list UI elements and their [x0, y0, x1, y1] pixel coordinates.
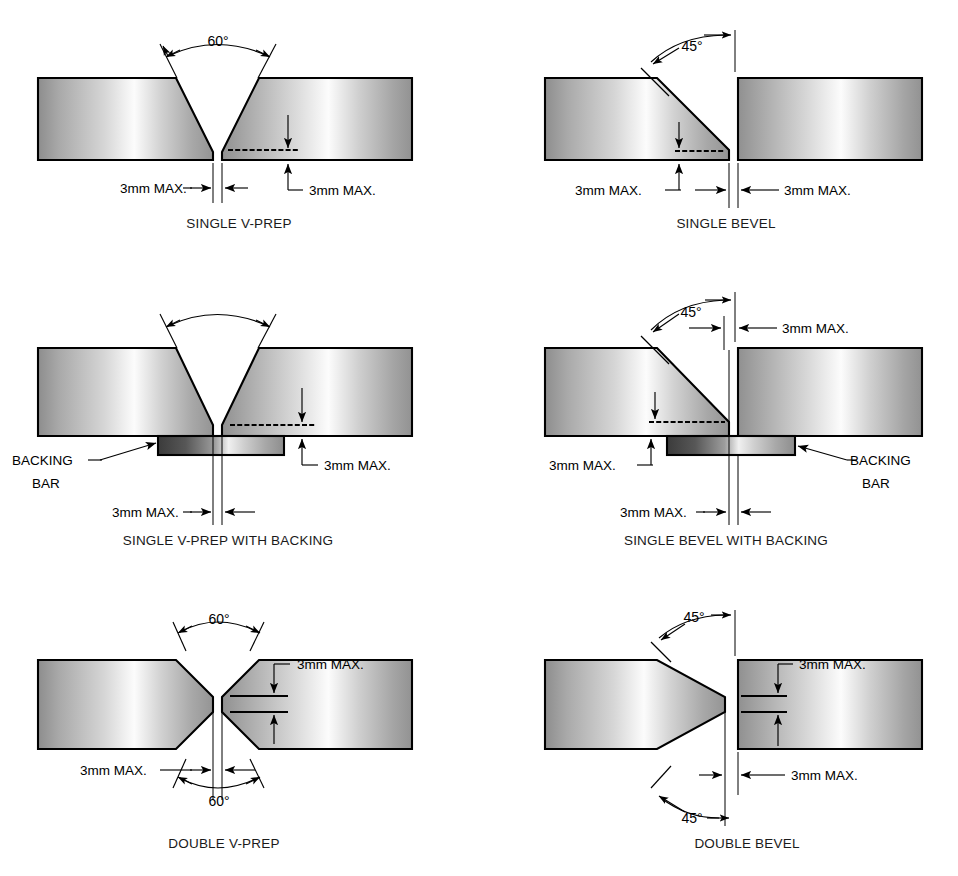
backing-bar — [667, 436, 795, 455]
root-gap-label: 3mm MAX. — [112, 505, 179, 520]
backing-bar-label-line1: BACKING — [12, 453, 73, 468]
angle-bottom-arrow-right — [246, 777, 260, 784]
left-plate — [38, 660, 213, 749]
angle-label-45-top: 45° — [683, 609, 704, 625]
panel-single-bevel-with-backing: 45° 3mm MAX. 3mm MAX. BACKING BAR 3mm MA… — [479, 250, 958, 560]
root-gap-label: 3mm MAX. — [120, 181, 187, 196]
panel-double-bevel: 45° 45° 3mm MAX. 3mm MAX. DOUBLE BEVEL — [479, 560, 958, 876]
angle-top-arrow-left — [178, 626, 192, 633]
root-face-label: 3mm MAX. — [309, 183, 376, 198]
bevel-extension-left — [160, 44, 177, 78]
left-plate — [545, 78, 729, 160]
angle-label-45: 45° — [681, 38, 702, 54]
weld-preparation-figure-sheet: 60° 3mm MAX. 3mm MAX. SINGLE V-PREP 45° — [0, 0, 958, 876]
right-plate — [738, 660, 922, 749]
panel-single-v-prep: 60° 3mm MAX. 3mm MAX. SINGLE V-PREP — [0, 0, 479, 250]
right-plate — [222, 348, 412, 436]
panel-caption: DOUBLE V-PREP — [168, 836, 279, 851]
bevel-ext-top-left — [173, 622, 186, 651]
root-gap-label: 3mm MAX. — [620, 505, 687, 520]
root-gap-label: 3mm MAX. — [791, 768, 858, 783]
backing-bar-leader — [798, 446, 847, 460]
angle-arrow-right — [256, 50, 270, 57]
root-gap-top-label: 3mm MAX. — [782, 321, 849, 336]
root-face-label: 3mm MAX. — [297, 657, 364, 672]
angle-top-arrow-to-bevel — [661, 624, 685, 640]
bevel-ext-bottom-right — [250, 759, 264, 788]
right-plate — [222, 660, 412, 749]
root-face-label: 3mm MAX. — [799, 657, 866, 672]
root-gap-label: 3mm MAX. — [80, 763, 147, 778]
angle-arrow-to-bevel — [653, 314, 679, 332]
right-plate — [738, 78, 922, 160]
angle-arc-60 — [168, 315, 268, 327]
panel-caption: SINGLE V-PREP — [186, 216, 291, 231]
backing-bar-leader — [100, 443, 156, 460]
backing-bar-label-line2: BAR — [32, 476, 60, 491]
bevel-ext-bottom-left — [173, 759, 186, 788]
bevel-extension-bottom — [651, 766, 671, 788]
left-plate — [545, 660, 725, 749]
bevel-extension-right — [258, 44, 276, 78]
panel-single-bevel: 45° 3mm MAX. 3mm MAX. SINGLE BEVEL — [479, 0, 958, 250]
panel-caption: DOUBLE BEVEL — [694, 836, 799, 851]
angle-label-60-bottom: 60° — [208, 793, 229, 809]
right-plate — [222, 78, 412, 160]
angle-top-arrow-right — [246, 626, 260, 633]
root-gap-label: 3mm MAX. — [784, 183, 851, 198]
angle-bottom-arrow-left — [178, 777, 192, 784]
backing-bar-label-line1: BACKING — [850, 453, 911, 468]
bevel-ext-top-right — [250, 622, 264, 651]
right-plate — [738, 348, 922, 436]
bevel-extension-left — [160, 314, 177, 348]
angle-arrow-right — [256, 320, 270, 327]
backing-bar — [158, 436, 284, 455]
angle-label-60: 60° — [207, 33, 228, 49]
angle-label-45-bottom: 45° — [681, 810, 702, 826]
panel-caption: SINGLE BEVEL WITH BACKING — [624, 533, 828, 548]
backing-bar-label-line2: BAR — [862, 476, 890, 491]
bevel-extension-right — [258, 314, 276, 348]
left-plate — [38, 348, 213, 436]
angle-arrow-left — [166, 320, 180, 327]
panel-caption: SINGLE V-PREP WITH BACKING — [123, 533, 334, 548]
panel-single-v-prep-with-backing: 3mm MAX. BACKING BAR 3mm MAX. SINGLE V-P… — [0, 250, 479, 560]
root-face-label: 3mm MAX. — [549, 458, 616, 473]
angle-label-45: 45° — [680, 304, 701, 320]
angle-label-60-top: 60° — [208, 611, 229, 627]
angle-arrow-left — [166, 50, 180, 57]
root-face-label: 3mm MAX. — [324, 458, 391, 473]
root-face-label: 3mm MAX. — [575, 183, 642, 198]
left-plate — [38, 78, 213, 160]
angle-arc-60-bottom — [180, 778, 258, 788]
panel-double-v-prep: 60° 60° 3mm MAX. 3mm MAX. DOUBLE V-PREP — [0, 560, 479, 876]
panel-caption: SINGLE BEVEL — [676, 216, 775, 231]
